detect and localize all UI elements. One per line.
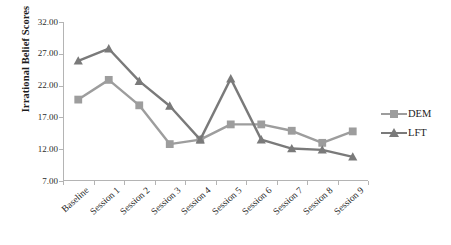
y-axis-tick-label: 17.00 [24, 113, 58, 122]
legend-label: DEM [408, 108, 431, 120]
y-axis-tick-label: 22.00 [24, 81, 58, 90]
y-axis-tick-labels: 32.0027.0022.0017.0012.007.00 [24, 0, 58, 245]
y-axis-tick-mark [59, 22, 63, 23]
series-lft [74, 44, 358, 160]
legend-triangle-icon [389, 128, 399, 137]
data-point-square [257, 121, 265, 129]
data-point-square [349, 127, 357, 135]
chart-legend: DEMLFT [381, 104, 431, 142]
legend-item-lft[interactable]: LFT [381, 123, 431, 142]
legend-swatch [381, 127, 407, 139]
y-axis-tick-label: 12.00 [24, 145, 58, 154]
y-axis-tick-label: 32.00 [24, 18, 58, 27]
y-axis-tick-mark [59, 117, 63, 118]
y-axis-tick-label: 27.00 [24, 49, 58, 58]
legend-item-dem[interactable]: DEM [381, 104, 431, 123]
y-axis-tick-mark [59, 86, 63, 87]
legend-swatch [381, 108, 407, 120]
data-point-square [166, 140, 174, 148]
series-dem [74, 76, 356, 148]
series-layer [63, 22, 368, 181]
plot-area [63, 22, 368, 181]
data-point-square [105, 76, 113, 84]
y-axis-tick-mark [59, 149, 63, 150]
data-point-square [288, 127, 296, 135]
data-point-triangle [104, 44, 113, 52]
data-point-square [227, 121, 235, 129]
legend-square-icon [390, 110, 398, 118]
x-axis-tick-mark [368, 181, 369, 185]
data-point-triangle [257, 135, 266, 143]
y-axis-tick-mark [59, 54, 63, 55]
series-line [78, 80, 353, 144]
y-axis-tick-label: 7.00 [24, 177, 58, 186]
data-point-triangle [226, 74, 235, 82]
chart-canvas: Irrational Belief Scores 32.0027.0022.00… [0, 0, 451, 245]
legend-label: LFT [408, 127, 427, 139]
x-axis-tick-labels: BaselineSession 1Session 2Session 3Sessi… [63, 183, 368, 245]
data-point-square [74, 96, 82, 104]
data-point-square [135, 101, 143, 109]
series-line [78, 49, 353, 157]
